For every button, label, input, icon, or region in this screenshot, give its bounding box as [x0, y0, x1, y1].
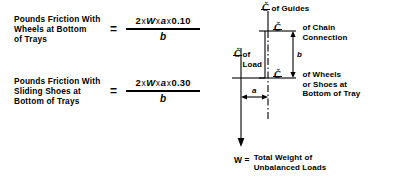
dimension-a-arrow-left: [241, 94, 247, 99]
formula-wheels-equals: =: [110, 23, 117, 35]
centerline-icon-chain: Č: [274, 24, 280, 34]
formula-wheels-denominator: b: [160, 30, 166, 43]
load-diagram: Čof Guides Čof Chain Connection Čof Load…: [232, 0, 401, 177]
formula-wheels-num-coefficient: 0.10: [172, 15, 191, 26]
formula-shoes-numerator: 2xWxax0.30: [132, 78, 193, 90]
formula-wheels-numerator: 2xWxax0.10: [132, 16, 193, 28]
centerline-icon-guides: Č: [262, 4, 268, 14]
formula-shoes-denominator: b: [160, 92, 166, 105]
formula-shoes-fraction: 2xWxax0.30 b: [126, 78, 200, 104]
label-chain-connection-text: of Chain Connection: [280, 23, 347, 42]
formula-shoes-equals: =: [110, 85, 117, 97]
formula-shoes-num-coefficient: 0.30: [172, 77, 191, 88]
weight-description: Total Weight of Unbalanced Loads: [250, 153, 327, 172]
formula-shoes-num-var1: W: [146, 77, 155, 88]
label-wheels-shoes: Čof Wheels or Shoes at Bottom of Tray: [274, 71, 360, 99]
formula-wheels-num-var1: W: [146, 15, 155, 26]
label-load: Čof Load: [234, 50, 262, 69]
dimension-label-a: a: [252, 86, 256, 95]
formula-wheels-description: Pounds Friction With Wheels at Bottom of…: [14, 14, 106, 45]
centerline-icon-load: Č: [234, 50, 240, 60]
weight-symbol: W =: [234, 153, 250, 166]
formula-wheels-fraction: 2xWxax0.10 b: [126, 16, 200, 42]
label-load-text: of Load: [240, 50, 262, 69]
formula-shoes: Pounds Friction With Sliding Shoes at Bo…: [14, 76, 200, 107]
weight-annotation: W =Total Weight of Unbalanced Loads: [234, 153, 326, 172]
label-guides: Čof Guides: [262, 4, 309, 14]
formula-shoes-description: Pounds Friction With Sliding Shoes at Bo…: [14, 76, 106, 107]
dimension-a-arrow-right: [262, 94, 268, 99]
label-wheels-shoes-text: of Wheels or Shoes at Bottom of Tray: [280, 70, 360, 99]
figure-root: Pounds Friction With Wheels at Bottom of…: [0, 0, 401, 177]
load-weight-arrow: [238, 138, 245, 147]
dimension-label-b: b: [297, 50, 302, 59]
label-guides-text: of Guides: [268, 4, 309, 13]
formula-panel: Pounds Friction With Wheels at Bottom of…: [0, 0, 230, 177]
label-chain-connection: Čof Chain Connection: [274, 24, 347, 42]
formula-wheels: Pounds Friction With Wheels at Bottom of…: [14, 14, 200, 45]
centerline-icon-wheels: Č: [274, 71, 280, 81]
